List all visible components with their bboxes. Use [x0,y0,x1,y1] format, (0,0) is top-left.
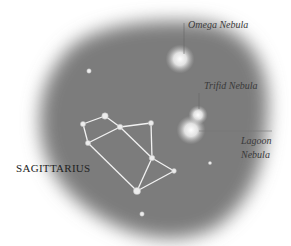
constellation-title: SAGITTARIUS [16,162,91,174]
star [87,69,91,73]
star [208,161,211,164]
star [148,120,153,125]
sky-region [40,21,268,238]
nebula-glow [177,116,206,145]
star [117,124,123,130]
star [85,140,90,145]
omega-nebula-label: Omega Nebula [188,19,248,30]
trifid-nebula-label: Trifid Nebula [204,80,258,91]
nebula-glow [166,45,195,74]
lagoon-nebula-label-line1: Lagoon [241,135,272,146]
sagittarius-diagram [0,0,291,246]
star [140,212,144,216]
star [172,169,177,174]
star [149,155,155,161]
star [133,187,140,194]
lagoon-nebula-label-line2: Nebula [241,149,270,160]
star [80,121,85,126]
star [102,113,108,119]
